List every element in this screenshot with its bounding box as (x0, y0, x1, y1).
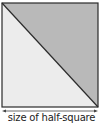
half-square-diagram (0, 0, 103, 124)
diagram-caption: size of half-square (0, 112, 103, 124)
